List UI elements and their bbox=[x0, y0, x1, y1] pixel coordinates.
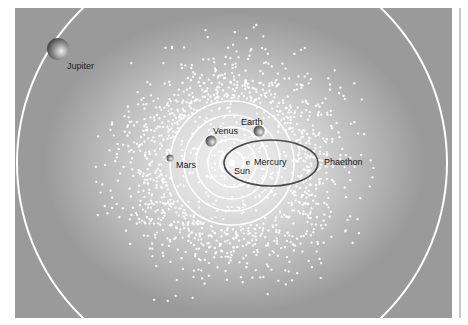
phaethon-label: Phaethon bbox=[324, 158, 363, 167]
earth-label: Earth bbox=[241, 118, 263, 127]
sun-label: Sun bbox=[234, 167, 250, 176]
jupiter-label: Jupiter bbox=[67, 62, 94, 71]
mars-label: Mars bbox=[176, 161, 196, 170]
jupiter-icon bbox=[47, 38, 69, 60]
page-edge-line bbox=[459, 8, 461, 318]
mercury-label: Mercury bbox=[254, 158, 287, 167]
orbit-diagram-svg bbox=[15, 8, 452, 318]
earth-icon bbox=[254, 126, 265, 137]
venus-icon bbox=[206, 136, 217, 147]
diagram-field bbox=[15, 8, 452, 318]
mercury-icon bbox=[246, 161, 250, 165]
venus-label: Venus bbox=[213, 127, 238, 136]
mars-icon bbox=[167, 155, 174, 162]
